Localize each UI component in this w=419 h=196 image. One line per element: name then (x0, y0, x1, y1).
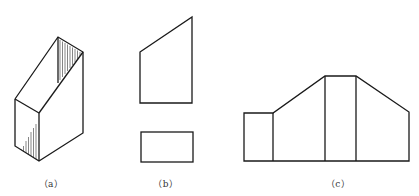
panel-b-top-view-rectangle (141, 132, 193, 162)
panel-c-outline (244, 76, 409, 161)
panel-b-front-view-trapezoid (140, 17, 192, 103)
panel-b-label: （b） (153, 177, 178, 190)
panel-c-label: （c） (326, 177, 351, 190)
diagram-canvas (0, 0, 419, 196)
panel-a-edge-front-top (15, 99, 39, 113)
panel-b-orthographic-views (140, 17, 193, 162)
panel-a-label: （a） (39, 177, 64, 190)
panel-c-development (244, 76, 409, 161)
panel-a-isometric-prism (15, 37, 83, 161)
panel-a-edge-slope (39, 52, 83, 113)
